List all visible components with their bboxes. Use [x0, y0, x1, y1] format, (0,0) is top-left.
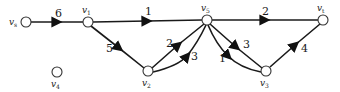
- svg-text:1: 1: [87, 9, 91, 16]
- svg-text:t: t: [322, 7, 325, 14]
- edge-v5-vt: 2: [212, 5, 318, 20]
- edge-v1-v2: 5: [91, 26, 144, 68]
- node-v5: v 5: [201, 3, 212, 25]
- svg-text:4: 4: [56, 83, 60, 90]
- svg-text:2: 2: [147, 82, 151, 89]
- edge-vs-v1: 6: [31, 7, 83, 22]
- edge-weight-v1-v5: 1: [145, 5, 152, 18]
- edge-weight-v5-v3-b: 1: [219, 52, 226, 65]
- edge-v5-v3-b: 1: [208, 25, 261, 72]
- node-v2: v 2: [142, 66, 153, 89]
- node-v1: v 1: [82, 5, 93, 27]
- edge-weight-v1-v2: 5: [106, 42, 113, 55]
- svg-text:s: s: [14, 21, 17, 28]
- node-vt: v t: [317, 3, 328, 25]
- edge-weight-v2-v5-a: 2: [166, 37, 173, 50]
- edge-v3-vt: 4: [270, 24, 320, 67]
- edge-weight-v3-vt: 4: [301, 42, 308, 55]
- node-v4: v 4: [51, 67, 62, 90]
- node-vs: v s: [9, 17, 31, 28]
- edge-weight-v2-v5-b: 3: [191, 50, 198, 63]
- edge-weight-v5-vt: 2: [262, 5, 269, 18]
- edge-weight-vs-v1: 6: [55, 7, 62, 20]
- svg-text:3: 3: [265, 82, 269, 89]
- edge-v5-v3-a: 3: [210, 24, 262, 68]
- edge-v2-v5-b: 3: [153, 25, 206, 72]
- node-v3: v 3: [260, 66, 271, 89]
- network-graph: 6 1 2 5 2 3 3 1 4 v s: [0, 0, 340, 92]
- svg-text:5: 5: [206, 7, 210, 14]
- edge-weight-v5-v3-a: 3: [243, 38, 250, 51]
- edge-v1-v5: 1: [93, 5, 202, 22]
